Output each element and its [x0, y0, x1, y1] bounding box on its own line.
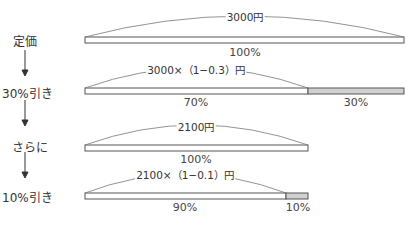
bar3-caption: 2100円 — [177, 119, 216, 134]
step-label-30-off: 30%引き — [2, 84, 53, 101]
diagram-graphics — [0, 0, 417, 226]
bar3-pct: 100% — [180, 153, 211, 166]
bar4-caption: 2100×（1−0.1）円 — [135, 167, 235, 182]
step-label-further: さらに — [12, 138, 48, 155]
step-label-10-off: 10%引き — [2, 188, 53, 205]
bar1-caption: 3000円 — [226, 9, 265, 24]
bar1-pct: 100% — [229, 46, 260, 59]
bar2-pct-remaining: 70% — [184, 96, 208, 109]
bar2-caption: 3000×（1−0.3）円 — [146, 62, 246, 77]
bar4-pct-discount: 10% — [286, 201, 310, 214]
bar4-pct-remaining: 90% — [173, 201, 197, 214]
bar2-pct-discount: 30% — [344, 96, 368, 109]
step-label-list-price: 定価 — [13, 32, 37, 49]
